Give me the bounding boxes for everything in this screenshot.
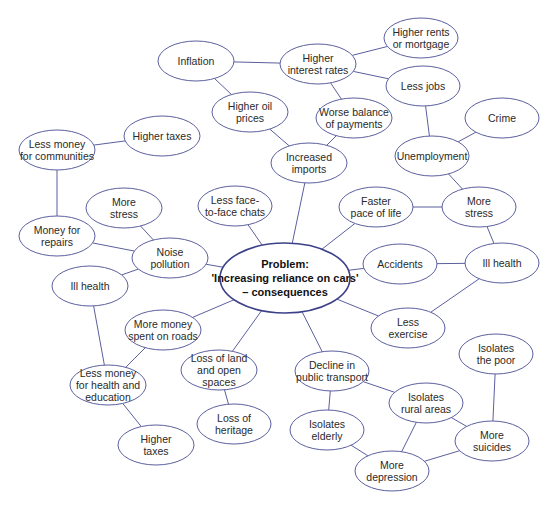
edge-higher-interest-rates-to-higher-rents (352, 46, 387, 55)
edge-more-depression-to-more-suicides (424, 451, 459, 462)
node-label: Higher oil (228, 100, 272, 112)
node-faster-pace: Fasterpace of life (339, 187, 413, 227)
edge-less-jobs-to-unemployment (426, 106, 430, 136)
node-label: Noise (157, 246, 184, 258)
node-inflation: Inflation (158, 41, 234, 81)
node-label: Ill health (70, 280, 109, 292)
edge-center-to-less-exercise (337, 299, 379, 316)
edge-higher-oil-prices-to-increased-imports (270, 129, 289, 146)
node-label: interest rates (288, 64, 349, 76)
node-label: Less money (80, 367, 137, 379)
node-more-money-roads: More moneyspent on roads (125, 310, 201, 350)
edge-less-exercise-to-ill-health-right (431, 279, 479, 312)
node-label: or mortgage (393, 38, 450, 50)
node-label: the poor (477, 354, 516, 366)
edge-more-stress-left-to-noise-pollution (141, 226, 154, 240)
node-label: Higher rents (392, 26, 449, 38)
node-less-exercise: Lessexercise (371, 308, 445, 348)
node-label: Higher (303, 52, 334, 64)
node-less-money-health: Less moneyfor health andeducation (70, 365, 146, 405)
node-label: exercise (388, 328, 427, 340)
node-label: 'Increasing reliance on cars' (211, 272, 358, 284)
node-label: imports (292, 163, 326, 175)
edge-center-to-decline-transport (302, 312, 322, 352)
node-label: Less jobs (401, 80, 445, 92)
node-label: Less (397, 316, 419, 328)
node-label: for communities (20, 150, 94, 162)
node-higher-oil-prices: Higher oilprices (212, 92, 288, 132)
node-label: More (480, 429, 504, 441)
node-label: Worse balance (319, 106, 389, 118)
node-label: Money for (34, 224, 81, 236)
node-label: Unemployment (397, 150, 468, 162)
node-loss-land: Loss of landand openspaces (181, 350, 257, 390)
edge-center-to-more-money-roads (193, 300, 235, 318)
node-label: – consequences (242, 286, 328, 298)
node-label: elderly (312, 430, 344, 442)
node-label: pollution (150, 258, 189, 270)
node-label: heritage (215, 424, 253, 436)
node-money-repairs: Money forrepairs (19, 216, 95, 256)
node-label: Loss of land (191, 352, 248, 364)
node-isolates-elderly: Isolateselderly (290, 410, 364, 450)
node-decline-transport: Decline inpublic transport (295, 351, 369, 391)
mind-map-diagram: Problem:'Increasing reliance on cars'– c… (0, 0, 556, 508)
edge-center-to-less-face-chats (248, 225, 262, 245)
edge-center-to-loss-land (232, 311, 261, 352)
node-label: Isolates (478, 342, 514, 354)
node-label: to-face chats (205, 206, 265, 218)
node-less-face-chats: Less face-to-face chats (198, 186, 272, 226)
node-label: Inflation (178, 55, 215, 67)
node-label: Less money (29, 138, 86, 150)
edge-less-money-health-to-higher-taxes-bottom (123, 403, 142, 426)
edge-less-money-communities-to-higher-taxes-top (94, 141, 125, 145)
edge-higher-interest-rates-to-less-jobs (353, 71, 388, 78)
concept-nodes: Problem:'Increasing reliance on cars'– c… (19, 18, 539, 491)
edge-isolates-rural-to-more-depression (402, 422, 417, 451)
node-label: Loss of (217, 412, 251, 424)
node-ill-health-left: Ill health (52, 266, 128, 306)
edge-unemployment-to-more-stress-right (448, 174, 462, 189)
node-label: pace of life (351, 207, 402, 219)
node-more-stress-left: Morestress (86, 188, 162, 228)
node-label: Isolates (309, 418, 345, 430)
node-label: Problem: (261, 258, 309, 270)
node-label: Isolates (408, 391, 444, 403)
node-more-depression: Moredepression (355, 451, 429, 491)
node-label: suicides (473, 441, 511, 453)
node-less-jobs: Less jobs (386, 66, 460, 106)
node-label: spaces (202, 376, 235, 388)
node-label: Accidents (377, 258, 423, 270)
edge-ill-health-left-to-less-money-health (94, 306, 105, 365)
edge-money-repairs-to-noise-pollution (93, 243, 135, 251)
edge-center-to-increased-imports (292, 183, 305, 243)
node-label: depression (366, 471, 418, 483)
node-loss-heritage: Loss ofheritage (197, 404, 271, 444)
node-label: Less face- (211, 194, 260, 206)
node-label: repairs (41, 236, 73, 248)
node-more-stress-right: Morestress (442, 187, 516, 227)
node-noise-pollution: Noisepollution (132, 238, 208, 278)
node-isolates-rural: Isolatesrural areas (389, 383, 463, 423)
edge-center-to-noise-pollution (206, 264, 223, 267)
node-label: Higher taxes (133, 130, 192, 142)
edge-more-stress-right-to-ill-health-right (487, 227, 494, 244)
node-label: More (112, 196, 136, 208)
edge-higher-interest-rates-to-worse-balance (331, 83, 342, 99)
node-label: spent on roads (128, 330, 197, 342)
node-higher-rents: Higher rentsor mortgage (384, 18, 458, 58)
node-label: Crime (488, 112, 516, 124)
node-accidents: Accidents (363, 244, 437, 284)
node-label: More (467, 195, 491, 207)
edge-inflation-to-higher-interest-rates (234, 62, 280, 63)
edge-worse-balance-to-increased-imports (327, 136, 337, 146)
central-problem-node: Problem:'Increasing reliance on cars'– c… (211, 243, 358, 313)
edge-isolates-elderly-to-more-depression (351, 445, 368, 456)
node-more-suicides: Moresuicides (455, 421, 529, 461)
edge-decline-transport-to-isolates-elderly (329, 391, 331, 410)
edge-center-to-accidents (348, 268, 364, 270)
node-label: taxes (143, 445, 168, 457)
node-ill-health-right: Ill health (465, 243, 539, 283)
node-label: stress (110, 208, 138, 220)
node-label: education (85, 391, 131, 403)
